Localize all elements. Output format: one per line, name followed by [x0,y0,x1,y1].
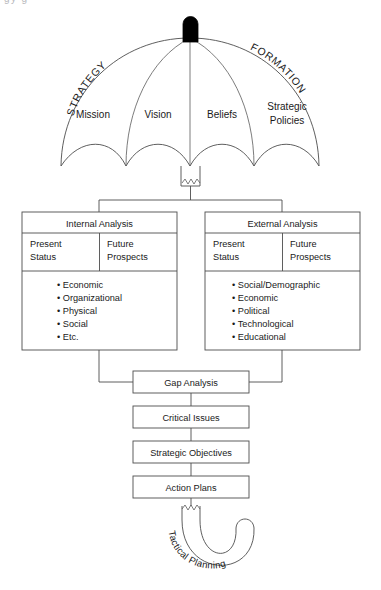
flow-box-critical-issues: Critical Issues [133,406,249,428]
external-present-status-line2: Status [213,252,239,262]
flow-label-gap-analysis: Gap Analysis [164,378,218,388]
cropped-title-text: gy g [4,0,29,4]
handle-label-tactical-planning: Tactical Planning [166,530,227,571]
external-present-status-line1: Present [213,239,245,249]
flow-label-critical-issues: Critical Issues [162,413,220,423]
flow-box-strategic-objectives: Strategic Objectives [133,441,249,463]
external-analysis-title: External Analysis [248,219,318,229]
internal-bullet-0: • Economic [57,280,104,290]
internal-present-status-line1: Present [30,239,62,249]
analysis-splitter [99,200,282,212]
umbrella-panel-beliefs: Beliefs [207,109,237,120]
diagram-canvas: STRATEGY FORMATION Mission Vision Belief… [0,0,381,590]
internal-bullet-3: • Social [57,319,88,329]
internal-future-prospects-line1: Future [107,239,134,249]
internal-bullet-4: • Etc. [57,332,79,342]
flow-label-action-plans: Action Plans [165,483,216,493]
umbrella-panel-strategic-policies-line1: Strategic [267,101,306,112]
umbrella-panel-strategic-policies-line2: Policies [270,115,304,126]
internal-present-status-line2: Status [30,252,56,262]
internal-bullet-2: • Physical [57,306,97,316]
external-bullet-4: • Educational [232,332,286,342]
external-future-prospects-line2: Prospects [290,252,331,262]
internal-analysis-box: Internal Analysis Present Status Future … [22,212,177,350]
umbrella-panel-mission: Mission [76,109,110,120]
external-bullet-0: • Social/Demographic [232,280,320,290]
external-bullet-3: • Technological [232,319,293,329]
strategy-formation-diagram: gy g STRATEGY [0,0,381,590]
umbrella-shaft-upper [181,166,200,200]
external-analysis-box: External Analysis Present Status Future … [205,212,360,350]
arc-label-formation: FORMATION [249,40,309,95]
flow-label-strategic-objectives: Strategic Objectives [150,448,232,458]
umbrella-canopy [61,17,319,167]
flow-box-gap-analysis: Gap Analysis [133,371,249,393]
external-bullet-1: • Economic [232,293,279,303]
external-bullet-2: • Political [232,306,269,316]
internal-future-prospects-line2: Prospects [107,252,148,262]
external-future-prospects-line1: Future [290,239,317,249]
internal-analysis-title: Internal Analysis [66,219,133,229]
internal-bullet-1: • Organizational [57,293,122,303]
flow-box-action-plans: Action Plans [133,476,249,498]
umbrella-panel-vision: Vision [144,109,171,120]
